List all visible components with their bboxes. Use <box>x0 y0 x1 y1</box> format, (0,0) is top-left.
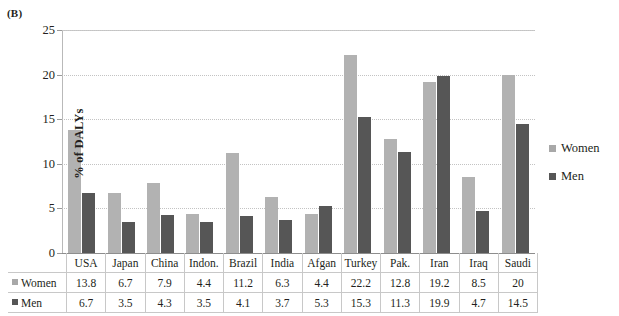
bar-women-japan <box>108 193 121 253</box>
table-cell: 3.5 <box>106 293 145 313</box>
column-header: Afgan <box>302 253 341 273</box>
bar-men-iraq <box>476 211 489 253</box>
square-swatch-icon <box>12 279 18 285</box>
bar-group <box>180 30 219 253</box>
table-cell: 22.2 <box>341 273 380 293</box>
y-tick-label: 10 <box>11 158 55 171</box>
panel-label: (B) <box>7 7 22 19</box>
table-row-label: Men <box>8 293 67 313</box>
bar-group <box>496 30 535 253</box>
column-header: USA <box>67 253 106 273</box>
table-row-label: Women <box>8 273 67 293</box>
bar-group <box>417 30 456 253</box>
table-cell: 11.2 <box>224 273 263 293</box>
column-header: Japan <box>106 253 145 273</box>
table-cell: 4.4 <box>184 273 223 293</box>
legend-item-women: Women <box>549 141 600 156</box>
bar-men-india <box>279 220 292 253</box>
table-row: USAJapanChinaIndon.BrazilIndiaAfganTurke… <box>8 253 538 273</box>
bar-men-pak <box>398 152 411 253</box>
bar-group <box>299 30 338 253</box>
column-header: China <box>145 253 184 273</box>
legend-label: Men <box>561 169 584 184</box>
bar-women-pak <box>384 139 397 253</box>
bar-men-turkey <box>358 117 371 253</box>
y-axis: 0510152025 <box>0 30 55 253</box>
bar-men-china <box>161 215 174 253</box>
table-cell: 15.3 <box>341 293 380 313</box>
chart-legend: Women Men <box>549 141 600 197</box>
column-header: Iraq <box>459 253 498 273</box>
table-cell: 4.1 <box>224 293 263 313</box>
bar-men-saudi <box>516 124 529 253</box>
bar-women-iran <box>423 82 436 253</box>
bar-men-brazil <box>240 216 253 253</box>
column-header: Brazil <box>224 253 263 273</box>
table-cell: 20 <box>498 273 537 293</box>
legend-item-men: Men <box>549 169 600 184</box>
table-cell: 6.7 <box>106 273 145 293</box>
data-table: USAJapanChinaIndon.BrazilIndiaAfganTurke… <box>8 253 538 313</box>
table-cell: 8.5 <box>459 273 498 293</box>
bar-women-indon <box>186 214 199 253</box>
bar-women-brazil <box>226 153 239 253</box>
table-cell: 6.7 <box>67 293 106 313</box>
bar-group <box>259 30 298 253</box>
bar-women-china <box>147 183 160 253</box>
table-cell: 3.7 <box>263 293 302 313</box>
table-cell: 6.3 <box>263 273 302 293</box>
bars-layer <box>62 30 535 253</box>
bar-group <box>141 30 180 253</box>
table-cell: 13.8 <box>67 273 106 293</box>
table-row-label-text: Women <box>21 277 56 289</box>
y-tick-label: 20 <box>11 69 55 82</box>
bar-group <box>338 30 377 253</box>
table-row-label-text: Men <box>21 297 42 309</box>
y-tick-label: 5 <box>11 202 55 215</box>
table-cell: 19.9 <box>420 293 459 313</box>
bar-women-saudi <box>502 75 515 253</box>
table-row: Men6.73.54.33.54.13.75.315.311.319.94.71… <box>8 293 538 313</box>
square-swatch-icon <box>549 145 556 152</box>
column-header: Turkey <box>341 253 380 273</box>
table-cell: 12.8 <box>381 273 420 293</box>
chart-plot-area: % of DALYs <box>62 30 535 253</box>
table-cell: 19.2 <box>420 273 459 293</box>
table-cell: 7.9 <box>145 273 184 293</box>
bar-men-indon <box>200 222 213 253</box>
bar-men-japan <box>122 222 135 253</box>
column-header: Iran <box>420 253 459 273</box>
table-cell: 5.3 <box>302 293 341 313</box>
y-tick-label: 15 <box>11 113 55 126</box>
legend-label: Women <box>561 141 600 156</box>
table-cell: 4.7 <box>459 293 498 313</box>
table-cell: 4.4 <box>302 273 341 293</box>
y-tick-label: 25 <box>11 24 55 37</box>
table-row: Women13.86.77.94.411.26.34.422.212.819.2… <box>8 273 538 293</box>
column-header: Pak. <box>381 253 420 273</box>
y-axis-title: % of DALYs <box>72 64 87 224</box>
square-swatch-icon <box>549 173 556 180</box>
column-header: India <box>263 253 302 273</box>
bar-group <box>456 30 495 253</box>
table-cell: 11.3 <box>381 293 420 313</box>
square-swatch-icon <box>12 299 18 305</box>
column-header: Indon. <box>184 253 223 273</box>
bar-men-iran <box>437 76 450 254</box>
bar-women-afgan <box>305 214 318 253</box>
bar-women-india <box>265 197 278 253</box>
column-header: Saudi <box>498 253 537 273</box>
bar-group <box>377 30 416 253</box>
bar-group <box>101 30 140 253</box>
bar-women-turkey <box>344 55 357 253</box>
table-corner-cell <box>8 253 67 273</box>
bar-women-iraq <box>462 177 475 253</box>
bar-group <box>220 30 259 253</box>
bar-men-afgan <box>319 206 332 253</box>
table-cell: 3.5 <box>184 293 223 313</box>
table-cell: 14.5 <box>498 293 537 313</box>
table-cell: 4.3 <box>145 293 184 313</box>
